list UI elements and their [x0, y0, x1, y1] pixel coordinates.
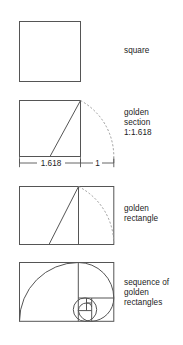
caption-golden-rectangle: golden rectangle: [124, 204, 158, 224]
caption-golden-section: golden section 1:1.618: [124, 108, 152, 139]
golden-rectangle-diagonal: [49, 187, 79, 245]
dim-label-minor: 1: [95, 159, 100, 168]
dim-label-major: 1.618: [41, 159, 62, 168]
panel-square-graphic: [14, 16, 86, 88]
golden-ratio-figure: 1.618 1 square golden section 1:1.618: [0, 0, 183, 345]
square-outline: [20, 22, 81, 82]
sequence-outer-rectangle: [20, 263, 114, 322]
section-diagonal: [50, 101, 81, 157]
sequence-inner-circle: [73, 298, 96, 321]
panel-golden-rectangle-graphic: [14, 181, 122, 251]
dimension-line-graphic: 1.618 1: [14, 156, 122, 172]
golden-rectangle-outline: [20, 187, 114, 245]
caption-golden-sequence: sequence of golden rectangles: [124, 278, 169, 309]
fibonacci-spiral: [20, 263, 114, 322]
panel-golden-sequence-graphic: [14, 257, 122, 329]
section-square-outline: [20, 101, 81, 157]
caption-square: square: [124, 46, 149, 56]
section-arc: [81, 101, 114, 157]
panel-golden-section-graphic: [14, 95, 122, 165]
golden-rectangle-arc: [79, 187, 114, 245]
